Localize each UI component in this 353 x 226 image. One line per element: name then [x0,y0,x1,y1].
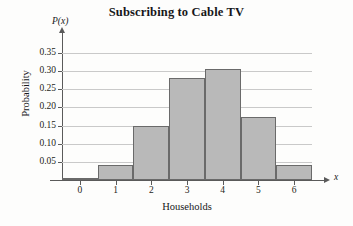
plot-area [62,44,312,180]
bar [241,117,277,180]
y-tick-label: 0.10 [28,139,56,149]
bar [169,78,205,180]
x-tick-label: 5 [246,186,270,196]
y-axis-title: Probability [20,49,31,139]
bar [98,165,134,180]
y-tick-mark [58,107,62,108]
x-tick-mark [223,181,224,185]
gridline [62,71,312,72]
x-tick-mark [151,181,152,185]
y-axis-arrow-icon [59,27,65,33]
bar [62,178,98,180]
x-tick-label: 3 [175,186,199,196]
y-tick-mark [58,71,62,72]
y-tick-label: 0.05 [28,157,56,167]
y-tick-mark [58,53,62,54]
y-tick-mark [58,126,62,127]
x-tick-label: 1 [104,186,128,196]
x-tick-mark [80,181,81,185]
x-tick-mark [294,181,295,185]
bar [133,126,169,180]
y-tick-label: 0.25 [28,84,56,94]
chart-figure: Subscribing to Cable TV P(x) x 0.050.100… [0,0,353,226]
y-tick-label: 0.30 [28,66,56,76]
x-tick-mark [187,181,188,185]
x-axis-variable-label: x [334,172,338,182]
gridline [62,53,312,54]
x-tick-label: 6 [282,186,306,196]
bar [205,69,241,180]
x-tick-label: 2 [139,186,163,196]
x-tick-label: 0 [68,186,92,196]
x-tick-mark [116,181,117,185]
y-tick-label: 0.35 [28,48,56,58]
y-axis-tick-labels: 0.050.100.150.200.250.300.35 [26,0,56,226]
y-tick-mark [58,162,62,163]
y-tick-label: 0.20 [28,102,56,112]
y-tick-mark [58,144,62,145]
x-axis-title: Households [62,201,312,212]
x-axis-arrow-icon [324,177,330,183]
x-tick-mark [258,181,259,185]
bar [276,165,312,180]
x-tick-label: 4 [211,186,235,196]
y-tick-mark [58,89,62,90]
y-tick-label: 0.15 [28,121,56,131]
